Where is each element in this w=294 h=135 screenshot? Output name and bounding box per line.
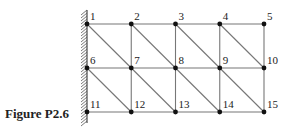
node-label-14: 14 [223, 98, 235, 110]
node-15 [262, 110, 267, 115]
node-8 [173, 66, 178, 71]
node-2 [129, 22, 134, 27]
node-13 [173, 110, 178, 115]
node-9 [217, 66, 222, 71]
node-4 [217, 22, 222, 27]
node-label-1: 1 [90, 10, 96, 22]
node-label-10: 10 [267, 54, 279, 66]
node-12 [129, 110, 134, 115]
node-label-3: 3 [179, 10, 185, 22]
node-label-4: 4 [223, 10, 229, 22]
figure-caption: Figure P2.6 [5, 106, 69, 122]
node-label-7: 7 [134, 54, 140, 66]
node-3 [173, 22, 178, 27]
node-labels: 123456789101112131415 [90, 10, 279, 110]
node-label-6: 6 [90, 54, 96, 66]
node-label-8: 8 [179, 54, 185, 66]
node-label-13: 13 [179, 98, 191, 110]
node-7 [129, 66, 134, 71]
node-14 [217, 110, 222, 115]
node-label-11: 11 [90, 98, 101, 110]
node-label-2: 2 [134, 10, 140, 22]
node-10 [262, 66, 267, 71]
node-label-15: 15 [267, 98, 279, 110]
node-11 [85, 110, 90, 115]
node-1 [85, 22, 90, 27]
node-5 [262, 22, 267, 27]
node-6 [85, 66, 90, 71]
node-label-9: 9 [223, 54, 229, 66]
node-label-5: 5 [267, 10, 273, 22]
node-label-12: 12 [134, 98, 145, 110]
